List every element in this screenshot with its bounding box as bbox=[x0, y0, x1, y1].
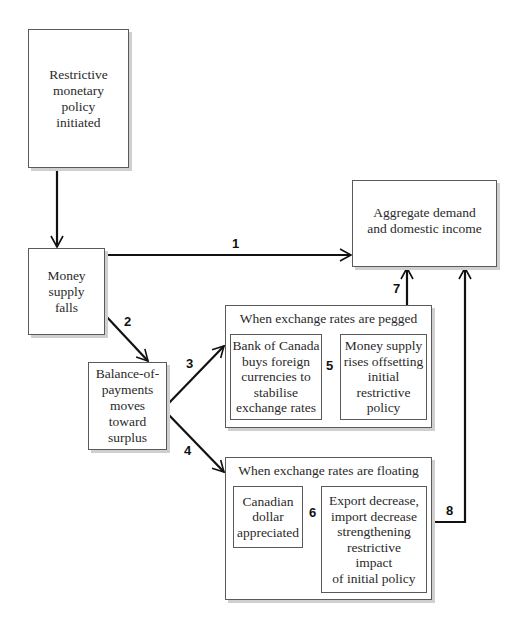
node-label: Money supply rises offsetting initial re… bbox=[344, 338, 424, 416]
node-restrictive-policy: Restrictive monetary policy initiated bbox=[28, 29, 129, 168]
group-title: When exchange rates are pegged bbox=[226, 311, 431, 327]
node-bank-buys-foreign: Bank of Canada buys foreign currencies t… bbox=[230, 334, 322, 420]
node-dollar-appreciated: Canadian dollar appreciated bbox=[233, 486, 303, 548]
arrow-8 bbox=[432, 268, 465, 522]
edge-label-1: 1 bbox=[232, 236, 239, 251]
node-label: Restrictive monetary policy initiated bbox=[49, 67, 107, 131]
node-aggregate-demand: Aggregate demand and domestic income bbox=[352, 180, 497, 267]
edge-label-3: 3 bbox=[186, 356, 193, 371]
node-money-supply-rises: Money supply rises offsetting initial re… bbox=[340, 334, 427, 420]
node-balance-of-payments: Balance-of- payments moves toward surplu… bbox=[88, 362, 167, 450]
node-label: Bank of Canada buys foreign currencies t… bbox=[233, 338, 320, 416]
edge-label-7: 7 bbox=[393, 281, 400, 296]
edge-label-5: 5 bbox=[326, 358, 333, 373]
edge-label-2: 2 bbox=[124, 314, 131, 329]
edge-label-8: 8 bbox=[446, 503, 453, 518]
node-label: Aggregate demand and domestic income bbox=[367, 205, 482, 237]
node-money-supply-falls: Money supply falls bbox=[28, 248, 105, 335]
node-label: Balance-of- payments moves toward surplu… bbox=[96, 366, 160, 446]
edge-label-6: 6 bbox=[309, 505, 316, 520]
arrow-3 bbox=[167, 346, 224, 405]
node-export-import-decrease: Export decrease, import decrease strengt… bbox=[321, 486, 427, 593]
arrow-4 bbox=[167, 413, 224, 472]
node-label: Money supply falls bbox=[47, 268, 85, 316]
node-label: Canadian dollar appreciated bbox=[237, 494, 299, 541]
group-title: When exchange rates are floating bbox=[226, 463, 431, 479]
node-label: Export decrease, import decrease strengt… bbox=[329, 493, 419, 586]
edge-label-4: 4 bbox=[184, 443, 191, 458]
